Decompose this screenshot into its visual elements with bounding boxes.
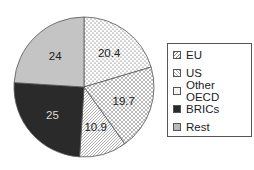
legend-item-rest: Rest (173, 120, 210, 134)
legend-label: US (186, 67, 202, 79)
legend-label: EU (186, 49, 202, 61)
pie-slices (14, 17, 154, 157)
solid-gray-swatch-icon (173, 123, 181, 131)
legend-label: Other OECD (186, 79, 251, 103)
slice-value-label: 19.7 (113, 95, 135, 107)
legend-item-brics: BRICs (173, 102, 219, 116)
legend-item-other-oecd: Other OECD (173, 84, 251, 98)
slice-value-label: 25 (46, 109, 59, 121)
legend-item-eu: EU (173, 48, 202, 62)
legend-label: Rest (186, 121, 210, 133)
slice-value-label: 20.4 (98, 47, 121, 59)
diagonal-hatch-swatch-icon (173, 51, 181, 59)
legend-label: BRICs (186, 103, 219, 115)
slice-value-label: 24 (49, 50, 62, 62)
legend: EU US Other OECD BRICs Rest (167, 43, 252, 137)
solid-dark-swatch-icon (173, 105, 181, 113)
crosshatch-swatch-icon (173, 69, 181, 77)
legend-item-us: US (173, 66, 202, 80)
slice-value-label: 10.9 (84, 121, 106, 133)
dotted-swatch-icon (173, 87, 181, 95)
